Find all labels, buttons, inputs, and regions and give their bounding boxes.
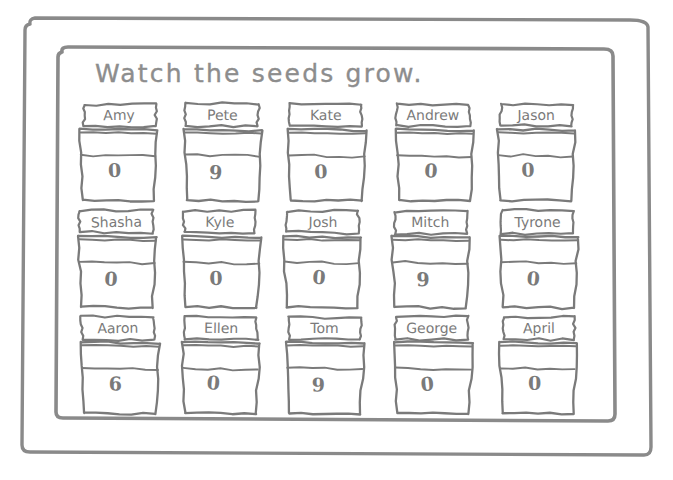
student-name: Amy xyxy=(103,107,135,123)
seed-count-value: 0 xyxy=(104,267,119,290)
student-name: Pete xyxy=(207,107,238,123)
student-name: Tyrone xyxy=(513,214,560,230)
student-name: Ellen xyxy=(204,320,238,337)
seed-count-value: 0 xyxy=(528,372,541,394)
student-name: George xyxy=(406,320,457,336)
seed-count-value: 0 xyxy=(314,160,328,182)
student-name: April xyxy=(523,320,555,336)
seed-count-value: 9 xyxy=(416,268,430,290)
seed-count-value: 0 xyxy=(521,158,535,180)
student-name: Kyle xyxy=(205,214,234,230)
seed-count-value: 0 xyxy=(424,159,438,182)
student-name: Jason xyxy=(516,107,555,123)
student-name: Shasha xyxy=(91,214,142,231)
seed-count-value: 9 xyxy=(209,161,223,184)
seed-chart-drawing: Watch the seeds grow. Amy0Pete9Kate0Andr… xyxy=(0,0,673,480)
student-name: Tom xyxy=(309,320,339,336)
student-name: Andrew xyxy=(406,107,459,123)
seed-count-value: 0 xyxy=(420,372,435,395)
seed-count-value: 6 xyxy=(109,372,122,394)
seed-count-value: 0 xyxy=(206,371,221,394)
student-name: Josh xyxy=(308,214,338,230)
seed-count-value: 9 xyxy=(312,374,325,396)
seed-count-value: 0 xyxy=(209,267,223,289)
student-name: Mitch xyxy=(411,214,449,230)
student-name: Aaron xyxy=(97,320,138,337)
seed-count-value: 0 xyxy=(526,267,541,290)
page-title: Watch the seeds grow. xyxy=(95,59,424,88)
seed-count-value: 0 xyxy=(108,159,122,181)
student-name: Kate xyxy=(310,107,342,123)
seed-count-value: 0 xyxy=(312,266,327,289)
cup-rim-line xyxy=(498,132,574,133)
cup-rim-line xyxy=(500,345,575,346)
